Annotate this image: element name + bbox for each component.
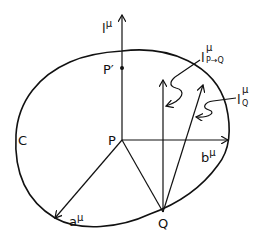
point-p-prime-dot [120,66,124,70]
label-l-q: l μ Q [237,84,249,108]
pointer-l-p-to-q [166,60,200,106]
l-q-vector-arrow [163,85,203,212]
segment-p-q [122,140,163,212]
svg-text:l: l [201,50,205,65]
pointer-l-q [196,98,236,117]
label-c: C [18,133,27,148]
a-vector-arrow [55,140,122,218]
svg-text:μ: μ [242,84,249,95]
svg-text:μ: μ [206,42,213,53]
label-b: bμ [201,147,216,165]
label-q: Q [158,216,168,231]
label-p: P [108,133,116,148]
label-l-p-to-q: l μ P→Q [201,42,224,65]
label-l: lμ [102,18,113,36]
label-p-prime: P′ [103,62,114,77]
diagram-canvas: lμ P′ P Q C bμ aμ l μ P→Q l μ Q [0,0,265,238]
svg-text:P→Q: P→Q [206,56,224,65]
svg-text:Q: Q [242,99,248,108]
svg-text:l: l [237,92,241,107]
